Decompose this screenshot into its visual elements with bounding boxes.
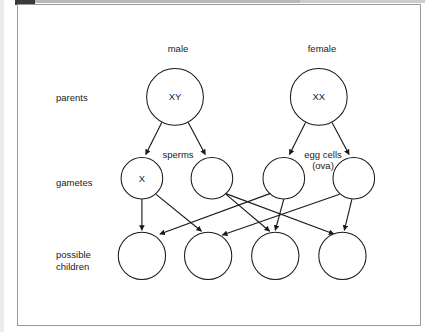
annotation-ova: (ova) xyxy=(290,160,356,171)
screenshot-canvas: XY XX X xyxy=(0,0,425,332)
child-circle-2 xyxy=(184,232,231,279)
arrow-ovum2-to-child2 xyxy=(222,194,339,235)
gamete-label-sperm-x: X xyxy=(139,173,146,184)
parent-circles: XY XX xyxy=(147,69,348,126)
label-male: male xyxy=(148,43,208,54)
children-circles xyxy=(118,232,366,279)
fertilisation-arrows xyxy=(142,193,352,235)
row-label-possible-children: possible children xyxy=(56,249,91,273)
label-female: female xyxy=(292,43,352,54)
parent-label-mother: XX xyxy=(312,91,325,102)
window-top-strip xyxy=(35,0,300,3)
arrow-spermx-to-child2 xyxy=(156,194,201,231)
parent-label-father: XY xyxy=(169,91,182,102)
row-label-parents: parents xyxy=(56,92,88,104)
child-circle-4 xyxy=(319,232,366,279)
window-top-strip-secondary xyxy=(300,0,425,3)
annotation-egg-cells: egg cells xyxy=(290,149,356,160)
diagram-frame: XY XX X xyxy=(17,4,421,326)
row-label-gametes: gametes xyxy=(56,177,92,189)
annotation-sperms: sperms xyxy=(148,149,208,160)
child-circle-3 xyxy=(252,232,299,279)
window-left-edge xyxy=(0,0,4,332)
child-circle-1 xyxy=(118,232,165,279)
arrow-ovum2-to-child4 xyxy=(344,199,352,230)
genetics-inheritance-diagram: XY XX X xyxy=(18,5,420,325)
gamete-circle-sperm-y xyxy=(191,157,233,199)
arrow-ovum1-to-child1 xyxy=(160,193,271,234)
